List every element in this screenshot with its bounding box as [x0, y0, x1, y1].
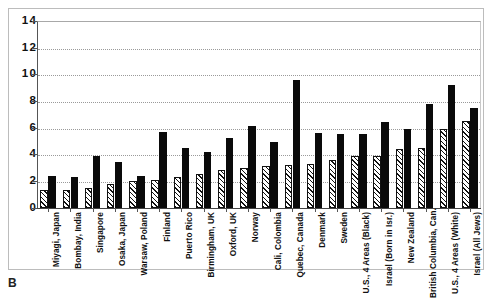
bar-solid: [426, 104, 433, 208]
bar-solid: [270, 142, 277, 207]
x-tick-label: Oxford, UK: [229, 212, 238, 298]
bar-hatched: [418, 148, 425, 208]
bar-hatched: [373, 156, 380, 208]
x-tick-label: Cali, Colombia: [274, 212, 283, 298]
bar-hatched: [218, 170, 225, 207]
bar-hatched: [351, 156, 358, 208]
bar-group: [370, 21, 392, 208]
bar-group: [59, 21, 81, 208]
bar-group: [37, 21, 59, 208]
x-tick-label: Bombay, India: [74, 212, 83, 298]
bar-solid: [448, 85, 455, 208]
x-axis-labels: Miyagi, JapanBombay, IndiaSingaporeOsaka…: [37, 212, 481, 300]
bar-solid: [71, 177, 78, 208]
x-tick-label: Finland: [163, 212, 172, 298]
bar-group: [437, 21, 459, 208]
bar-hatched: [262, 166, 269, 207]
bar-group: [392, 21, 414, 208]
bar-solid: [182, 148, 189, 208]
bar-solid: [470, 108, 477, 208]
y-tick-label: 8: [9, 94, 37, 106]
x-tick-label: Quebec, Canada: [296, 212, 305, 298]
bar-solid: [159, 132, 166, 208]
bar-hatched: [40, 190, 47, 207]
bar-group: [326, 21, 348, 208]
bar-group: [192, 21, 214, 208]
x-tick-label: Norway: [251, 212, 260, 298]
y-tick-label: 12: [9, 41, 37, 53]
bar-solid: [381, 122, 388, 207]
x-tick-label: Israel (All Jews): [473, 212, 482, 298]
bar-group: [237, 21, 259, 208]
bar-solid: [48, 176, 55, 208]
bar-solid: [204, 152, 211, 208]
y-tick-label: 10: [9, 67, 37, 79]
bar-hatched: [462, 121, 469, 208]
x-tick-label: Israel (Born in Isr.): [385, 212, 394, 298]
bar-group: [348, 21, 370, 208]
bar-hatched: [396, 149, 403, 208]
bar-hatched: [240, 168, 247, 208]
bar-solid: [359, 134, 366, 207]
bar-group: [414, 21, 436, 208]
bar-solid: [93, 156, 100, 208]
x-tick-label: Warsaw, Poland: [140, 212, 149, 298]
bar-hatched: [440, 129, 447, 208]
bar-group: [215, 21, 237, 208]
bar-group: [170, 21, 192, 208]
bar-group: [259, 21, 281, 208]
x-tick-label: New Zealand: [407, 212, 416, 298]
bar-hatched: [196, 174, 203, 207]
bar-hatched: [129, 181, 136, 208]
x-tick-label: U.S., 4 Areas (Black): [362, 212, 371, 298]
y-tick-label: 0: [9, 201, 37, 213]
bar-hatched: [107, 184, 114, 208]
bar-group: [104, 21, 126, 208]
bar-solid: [115, 162, 122, 207]
x-tick-label: Osaka, Japan: [118, 212, 127, 298]
bar-solid: [315, 133, 322, 208]
y-tick-label: 4: [9, 147, 37, 159]
bar-solid: [404, 129, 411, 208]
bar-group: [148, 21, 170, 208]
bar-group: [81, 21, 103, 208]
bar-hatched: [85, 188, 92, 208]
bar-series-container: [37, 21, 481, 208]
y-tick-label: 2: [9, 174, 37, 186]
x-tick-label: Puerto Rico: [185, 212, 194, 298]
bar-hatched: [307, 164, 314, 208]
y-tick-label: 6: [9, 121, 37, 133]
bar-hatched: [329, 160, 336, 208]
bar-group: [303, 21, 325, 208]
bar-solid: [137, 176, 144, 208]
bar-hatched: [174, 177, 181, 208]
figure-panel-b: 02468101214 Miyagi, JapanBombay, IndiaSi…: [0, 0, 493, 305]
x-tick-label: Miyagi, Japan: [52, 212, 61, 298]
bar-group: [126, 21, 148, 208]
bar-group: [459, 21, 481, 208]
x-tick-label: U.S., 4 Areas (White): [451, 212, 460, 298]
y-tick-label: 14: [9, 14, 37, 26]
x-tick-label: Sweden: [340, 212, 349, 298]
x-tick-label: Denmark: [318, 212, 327, 298]
bar-hatched: [63, 190, 70, 207]
bar-solid: [293, 80, 300, 208]
bar-group: [281, 21, 303, 208]
bar-solid: [337, 134, 344, 207]
x-tick-label: Birmingham, UK: [207, 212, 216, 298]
panel-label: B: [8, 276, 17, 290]
x-tick-label: British Columbia, Can.: [429, 212, 438, 298]
bar-hatched: [151, 180, 158, 208]
bar-solid: [226, 138, 233, 207]
x-tick-label: Singapore: [96, 212, 105, 298]
bar-solid: [248, 126, 255, 207]
y-axis: 02468101214: [0, 21, 37, 208]
bar-hatched: [285, 165, 292, 208]
